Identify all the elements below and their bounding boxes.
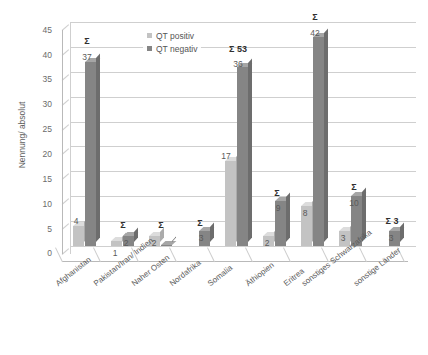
floor-tick-6: [283, 247, 291, 262]
floor-front-edge: [62, 261, 408, 262]
y-tick-25: 25: [30, 124, 52, 134]
sum-label-naher-osten: Σ: [152, 220, 170, 230]
y-tick-10: 10: [30, 199, 52, 209]
bar-face: [73, 226, 84, 246]
legend-swatch-positiv-icon: [147, 33, 152, 38]
bar-group-sonstige-laender: [372, 22, 410, 246]
sum-label-sonstige-laender: Σ 3: [378, 216, 406, 226]
floor-tick-8: [359, 247, 367, 262]
bar-somalia-positiv[interactable]: [225, 161, 236, 246]
bar-face: [313, 37, 324, 246]
y-tick-35: 35: [30, 74, 52, 84]
legend-swatch-negativ-icon: [147, 46, 152, 51]
bar-face: [237, 67, 248, 246]
sum-label-afghanistan: Σ: [78, 36, 96, 46]
chart-legend: QT positiv QT negativ: [143, 27, 201, 57]
y-tick-30: 30: [30, 99, 52, 109]
bar-afghanistan-negativ[interactable]: [85, 62, 96, 246]
value-label-afghanistan-positiv: 4: [67, 216, 85, 226]
bar-side: [286, 193, 290, 242]
value-label-pakistan-negativ: 2: [117, 238, 135, 248]
legend-item-qt-negativ[interactable]: QT negativ: [147, 42, 197, 55]
legend-label-qt-positiv: QT positiv: [156, 31, 194, 41]
value-label-eritrea-negativ: 42: [306, 28, 324, 38]
y-axis-line: [62, 30, 63, 254]
floor-tick-4: [207, 247, 215, 262]
value-label-schwarzafrika-negativ: 10: [345, 198, 363, 208]
chart-container: Nennung/ absolut 45 40 35 30 25 20 15 10…: [0, 0, 428, 355]
bar-side: [96, 54, 100, 242]
x-label-somalia: Somalia: [206, 263, 234, 288]
sum-label-schwarzafrika: Σ: [345, 182, 363, 192]
y-tick-20: 20: [30, 149, 52, 159]
sum-label-aethiopien: Σ: [268, 188, 286, 198]
sum-label-nordafrika: Σ: [191, 218, 209, 228]
bar-eritrea-negativ[interactable]: [313, 37, 324, 246]
bar-group-pakistan-iran-indien: [106, 22, 144, 246]
value-label-aethiopien-negativ: 9: [269, 203, 287, 213]
floor-tick-0: [55, 247, 63, 262]
bar-somalia-negativ[interactable]: [237, 67, 248, 246]
bar-side: [210, 223, 214, 242]
bar-group-somalia: [220, 22, 258, 246]
sum-label-somalia: Σ 53: [222, 44, 254, 54]
bar-face: [225, 161, 236, 246]
sum-label-pakistan: Σ: [114, 220, 132, 230]
legend-item-qt-positiv[interactable]: QT positiv: [147, 29, 197, 42]
bar-face: [85, 62, 96, 246]
sum-label-eritrea: Σ: [306, 12, 324, 22]
y-tick-5: 5: [30, 224, 52, 234]
plot-area: 4 37 Σ 1 2 Σ: [62, 22, 416, 254]
legend-label-qt-negativ: QT negativ: [156, 44, 197, 54]
bar-afghanistan-positiv[interactable]: [73, 226, 84, 246]
y-tick-45: 45: [30, 25, 52, 35]
value-label-aethiopien-positiv: 2: [258, 238, 276, 248]
floor-tick-5: [245, 247, 253, 262]
floor-tick-1: [93, 247, 101, 262]
x-label-nordafrika: Nordafrika: [168, 258, 203, 288]
y-tick-40: 40: [30, 50, 52, 60]
value-label-somalia-positiv: 17: [217, 151, 235, 161]
value-label-nordafrika-negativ: 3: [192, 233, 210, 243]
bar-group-sonstiges-schwarzafrika: [334, 22, 372, 246]
y-axis-title: Nennung/ absolut: [17, 75, 27, 195]
bar-side: [248, 59, 252, 242]
y-tick-15: 15: [30, 174, 52, 184]
value-label-afghanistan-negativ: 37: [78, 52, 96, 62]
y-tick-0: 0: [30, 248, 52, 258]
value-label-sonstige-laender-negativ: 3: [382, 233, 400, 243]
bar-top: [161, 241, 176, 245]
cropped-title: [18, 0, 21, 5]
value-label-somalia-negativ: 36: [229, 59, 247, 69]
value-label-eritrea-positiv: 8: [296, 208, 314, 218]
bar-side: [324, 29, 328, 242]
x-label-aethiopien: Äthiopien: [244, 260, 276, 288]
